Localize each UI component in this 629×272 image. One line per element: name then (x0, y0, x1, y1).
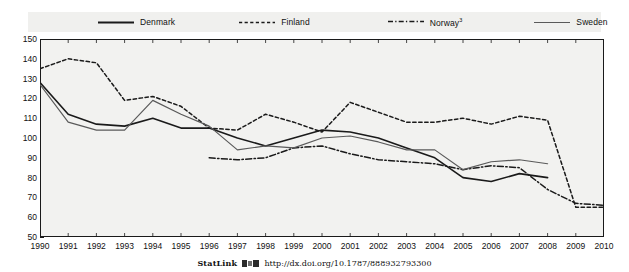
x-tick-label: 1997 (228, 241, 247, 251)
legend-swatch-finland-icon (239, 18, 275, 27)
legend-entry-norway: Norway3 (388, 17, 463, 28)
x-tick-label: 1990 (31, 241, 50, 251)
y-tick-label: 80 (7, 173, 37, 183)
x-tick-label: 1993 (115, 241, 134, 251)
legend-label-finland: Finland (281, 17, 310, 27)
y-tick-label: 60 (7, 212, 37, 222)
legend-label-norway: Norway3 (430, 17, 463, 28)
statlink-barcode-icon (242, 260, 259, 267)
y-tick-label: 140 (7, 54, 37, 64)
statlink-footer: StatLink http://dx.doi.org/10.1787/88893… (0, 255, 629, 271)
y-tick-label: 110 (7, 113, 37, 123)
chart-figure: DenmarkFinlandNorway3Sweden 506070809010… (0, 0, 629, 272)
x-tick-label: 2002 (369, 241, 388, 251)
statlink-url[interactable]: http://dx.doi.org/10.1787/888932793300 (264, 259, 431, 268)
plot-area (40, 39, 604, 237)
legend-footnote-marker: 3 (459, 17, 462, 23)
x-tick-label: 2000 (313, 241, 332, 251)
x-tick-label: 2006 (482, 241, 501, 251)
legend-swatch-norway-icon (388, 17, 424, 26)
y-tick-mark (40, 237, 44, 238)
statlink-label: StatLink (197, 258, 237, 268)
plot-lines (40, 39, 604, 237)
legend-entry-denmark: Denmark (98, 17, 175, 27)
x-tick-label: 2004 (425, 241, 444, 251)
x-tick-label: 2010 (595, 241, 614, 251)
x-tick-label: 2003 (397, 241, 416, 251)
y-tick-label: 70 (7, 192, 37, 202)
x-axis: 1990199119921993199419951996199719981999… (40, 241, 604, 255)
y-tick-label: 100 (7, 133, 37, 143)
legend-entry-finland: Finland (239, 17, 310, 27)
x-tick-label: 2009 (566, 241, 585, 251)
series-line-sweden (40, 85, 548, 170)
x-tick-label: 1998 (256, 241, 275, 251)
y-tick-label: 90 (7, 153, 37, 163)
x-tick-label: 1995 (172, 241, 191, 251)
y-tick-label: 120 (7, 93, 37, 103)
x-tick-label: 1996 (200, 241, 219, 251)
chart-legend: DenmarkFinlandNorway3Sweden (28, 12, 601, 32)
legend-label-sweden: Sweden (576, 17, 607, 27)
x-tick-label: 2005 (454, 241, 473, 251)
legend-entry-sweden: Sweden (534, 17, 607, 27)
legend-swatch-denmark-icon (98, 18, 134, 27)
x-tick-label: 1991 (59, 241, 78, 251)
x-tick-label: 1992 (87, 241, 106, 251)
x-tick-label: 1999 (284, 241, 303, 251)
series-line-norway (209, 146, 604, 205)
y-tick-label: 150 (7, 34, 37, 44)
x-tick-label: 2008 (538, 241, 557, 251)
y-axis: 5060708090100110120130140150 (4, 39, 37, 237)
x-tick-label: 2007 (510, 241, 529, 251)
y-tick-label: 130 (7, 74, 37, 84)
legend-swatch-sweden-icon (534, 18, 570, 27)
x-tick-label: 2001 (341, 241, 360, 251)
series-line-finland (40, 59, 604, 208)
x-tick-label: 1994 (143, 241, 162, 251)
legend-label-denmark: Denmark (140, 17, 175, 27)
